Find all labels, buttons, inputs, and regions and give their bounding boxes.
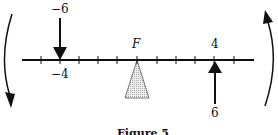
up-arrow-icon <box>208 61 222 104</box>
down-arrow-icon <box>53 18 67 60</box>
rotation-arrow-right-icon <box>263 10 273 106</box>
fulcrum-label: F <box>132 38 140 50</box>
rotation-arrow-left-icon <box>4 14 15 108</box>
figure-caption: Figure 5 <box>117 128 169 135</box>
right-position-label: 4 <box>211 38 219 50</box>
right-force-magnitude-label: 6 <box>211 107 219 119</box>
left-force-magnitude-label: −6 <box>51 3 69 15</box>
fulcrum-triangle <box>125 60 149 98</box>
left-position-label: −4 <box>51 68 69 80</box>
lever-diagram <box>0 0 278 135</box>
